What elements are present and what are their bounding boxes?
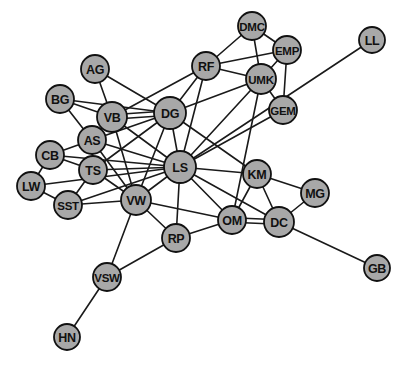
node-circle[interactable]	[364, 255, 390, 281]
node-circle[interactable]	[218, 206, 246, 234]
graph-edge	[180, 110, 283, 167]
node-circle[interactable]	[93, 263, 121, 291]
node-circle[interactable]	[54, 191, 82, 219]
node-circle[interactable]	[269, 96, 297, 124]
graph-node-bg[interactable]: BG	[46, 85, 74, 113]
graph-node-emp[interactable]: EMP	[273, 36, 301, 64]
graph-node-ts[interactable]: TS	[79, 156, 107, 184]
network-graph-figure: DMCEMPLLRFUMKAGGEMBGVBDGASCBTSLSKMLWMGVW…	[0, 0, 410, 366]
graph-node-dg[interactable]: DG	[154, 97, 186, 129]
graph-node-as[interactable]: AS	[78, 126, 106, 154]
node-circle[interactable]	[162, 224, 190, 252]
graph-node-vw[interactable]: VW	[121, 185, 151, 215]
node-circle[interactable]	[81, 55, 109, 83]
node-circle[interactable]	[97, 102, 127, 132]
graph-node-vb[interactable]: VB	[97, 102, 127, 132]
graph-node-ag[interactable]: AG	[81, 55, 109, 83]
graph-edge	[279, 222, 377, 268]
graph-node-sst[interactable]: SST	[54, 191, 82, 219]
node-circle[interactable]	[54, 324, 80, 350]
graph-node-gb[interactable]: GB	[364, 255, 390, 281]
graph-node-ls[interactable]: LS	[164, 151, 196, 183]
node-circle[interactable]	[243, 160, 271, 188]
node-circle[interactable]	[79, 156, 107, 184]
graph-node-vsw[interactable]: VSW	[93, 263, 121, 291]
node-circle[interactable]	[359, 27, 385, 53]
graph-node-mg[interactable]: MG	[301, 179, 329, 207]
node-circle[interactable]	[192, 52, 220, 80]
node-circle[interactable]	[154, 97, 186, 129]
node-circle[interactable]	[17, 172, 45, 200]
graph-node-rp[interactable]: RP	[162, 224, 190, 252]
graph-node-dmc[interactable]: DMC	[238, 12, 266, 40]
graph-node-gem[interactable]: GEM	[269, 96, 297, 124]
node-circle[interactable]	[238, 12, 266, 40]
graph-node-rf[interactable]: RF	[192, 52, 220, 80]
graph-node-hn[interactable]: HN	[54, 324, 80, 350]
node-circle[interactable]	[36, 141, 64, 169]
graph-node-cb[interactable]: CB	[36, 141, 64, 169]
graph-node-dc[interactable]: DC	[264, 207, 294, 237]
node-circle[interactable]	[273, 36, 301, 64]
graph-node-umk[interactable]: UMK	[246, 64, 276, 94]
node-circle[interactable]	[121, 185, 151, 215]
node-circle[interactable]	[78, 126, 106, 154]
node-circle[interactable]	[264, 207, 294, 237]
node-circle[interactable]	[46, 85, 74, 113]
graph-node-ll[interactable]: LL	[359, 27, 385, 53]
graph-node-om[interactable]: OM	[218, 206, 246, 234]
node-circle[interactable]	[246, 64, 276, 94]
network-graph-canvas: DMCEMPLLRFUMKAGGEMBGVBDGASCBTSLSKMLWMGVW…	[0, 0, 410, 366]
node-circle[interactable]	[164, 151, 196, 183]
graph-node-km[interactable]: KM	[243, 160, 271, 188]
node-circle[interactable]	[301, 179, 329, 207]
graph-node-lw[interactable]: LW	[17, 172, 45, 200]
